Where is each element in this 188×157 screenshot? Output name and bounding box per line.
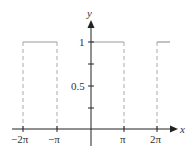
x-axis-arrow-icon: [170, 126, 178, 133]
y-axis: [88, 20, 95, 146]
x-axis-label: x: [179, 123, 185, 135]
y-tick-0-5: 0.5: [71, 80, 85, 92]
x-axis: [12, 126, 178, 133]
x-tick-negpi: −π: [48, 133, 60, 145]
x-tick-neg2pi: −2π: [11, 133, 29, 145]
y-axis-arrow-icon: [88, 20, 95, 28]
square-wave-chart: y x 1 0.5 −2π −π π 2π: [0, 0, 188, 157]
x-tick-2pi: 2π: [150, 133, 162, 145]
y-axis-label: y: [86, 7, 92, 19]
x-tick-pi: π: [120, 133, 126, 145]
y-tick-1: 1: [79, 36, 85, 48]
